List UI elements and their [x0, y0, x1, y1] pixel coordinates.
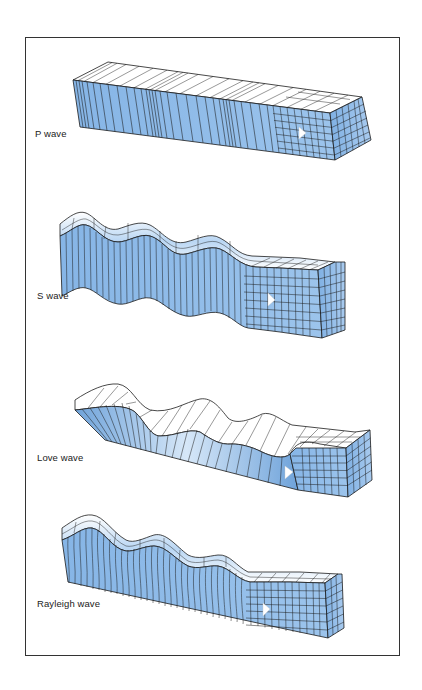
s-wave-block	[60, 212, 345, 338]
seismic-waves-diagram	[0, 0, 422, 690]
p-wave-label: P wave	[35, 128, 67, 139]
rayleigh-wave-block	[62, 515, 344, 638]
rayleigh-wave-label: Rayleigh wave	[37, 598, 100, 609]
p-wave-block	[73, 62, 371, 160]
love-wave-label: Love wave	[37, 452, 83, 463]
love-wave-block	[75, 384, 372, 497]
s-wave-label: S wave	[37, 290, 69, 301]
